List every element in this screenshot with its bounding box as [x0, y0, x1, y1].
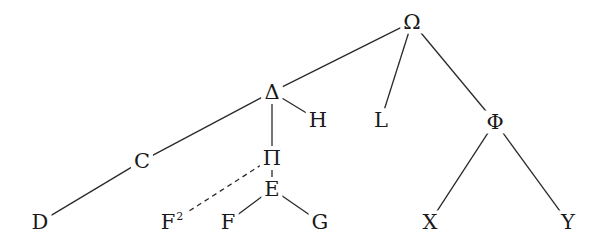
edge-pi-F2: [182, 164, 262, 215]
node-label-text: Ω: [403, 10, 420, 34]
tree-diagram: ΩΔLΦHΠCEDF2FGXY: [0, 0, 605, 246]
node-F2: F2: [158, 210, 187, 234]
edge-delta-H: [282, 98, 307, 114]
node-delta: Δ: [261, 81, 282, 104]
edge-phi-X: [437, 132, 489, 212]
node-label-text: L: [374, 108, 388, 132]
node-F: F: [218, 211, 239, 234]
node-G: G: [309, 211, 332, 234]
node-label-text: D: [32, 210, 49, 234]
node-L: L: [371, 109, 391, 132]
node-label-text: Φ: [486, 110, 503, 134]
node-label-text: F: [221, 210, 236, 234]
node-X: X: [420, 211, 441, 234]
node-label-text: Δ: [264, 80, 279, 104]
edge-E-F: [238, 196, 263, 215]
node-label-text: C: [134, 149, 150, 173]
edge-delta-C: [153, 98, 262, 156]
node-label-text: X: [423, 210, 438, 234]
edge-omega-phi: [420, 31, 488, 113]
node-label-text: H: [309, 108, 327, 132]
node-superscript: 2: [176, 210, 183, 223]
node-label-text: E: [264, 177, 279, 201]
node-E: E: [261, 178, 282, 201]
edge-phi-Y: [502, 132, 561, 213]
node-D: D: [29, 211, 52, 234]
node-Y: Y: [558, 211, 578, 234]
node-H: H: [306, 109, 330, 132]
node-label-text: F: [161, 210, 176, 234]
edge-omega-delta: [283, 27, 402, 86]
edge-C-D: [50, 167, 131, 216]
edge-E-G: [282, 196, 310, 215]
node-label-text: G: [312, 210, 329, 234]
tree-edges: [0, 0, 605, 246]
edge-omega-L: [385, 33, 409, 108]
node-phi: Φ: [483, 111, 506, 134]
node-pi: Π: [260, 147, 284, 170]
node-label-text: Y: [561, 210, 575, 234]
node-C: C: [131, 150, 153, 173]
node-omega: Ω: [400, 11, 423, 34]
node-label-text: Π: [263, 146, 281, 170]
